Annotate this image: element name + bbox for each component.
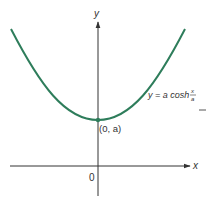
vertex-point [96,118,100,122]
catenary-chart: y x 0 (0, a) y = a cosh x a [0,0,208,204]
curve-equation-text: y = a cosh [147,90,189,100]
curve-fraction-denominator: a [191,96,195,102]
curve-equation-label: y = a cosh [147,90,189,100]
curve-fraction-numerator: x [190,88,195,94]
y-axis-label: y [93,8,100,19]
vertex-label: (0, a) [99,123,121,134]
x-axis-label: x [192,160,199,171]
origin-label: 0 [89,172,95,183]
